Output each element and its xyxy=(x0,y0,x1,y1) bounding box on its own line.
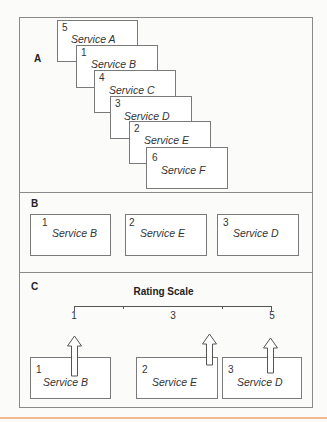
card-b-service-d: 3 Service D xyxy=(217,214,299,256)
card-name: Service B xyxy=(91,58,136,70)
card-b-service-b: 1 Service B xyxy=(30,214,111,256)
card-c-service-e: 2 Service E xyxy=(136,357,218,399)
scale-label-1: 1 xyxy=(71,310,77,321)
card-c-service-d: 3 Service D xyxy=(222,357,302,399)
bottom-accent-line xyxy=(0,417,327,419)
rating-scale-title: Rating Scale xyxy=(0,286,327,297)
scale-label-3: 3 xyxy=(170,310,176,321)
card-rank: 6 xyxy=(152,152,158,163)
card-name: Service E xyxy=(140,227,185,239)
card-rank: 1 xyxy=(42,217,48,228)
card-rank: 3 xyxy=(115,98,121,109)
card-name: Service E xyxy=(144,134,189,146)
card-rank: 2 xyxy=(129,217,135,228)
card-name: Service F xyxy=(161,164,205,176)
card-rank: 4 xyxy=(99,72,105,83)
card-name: Service B xyxy=(43,376,88,388)
card-rank: 5 xyxy=(62,22,68,33)
card-rank: 2 xyxy=(142,364,148,375)
divider-b-c xyxy=(19,272,313,273)
card-name: Service D xyxy=(237,376,283,388)
card-rank: 2 xyxy=(134,123,140,134)
card-c-service-b: 1 Service B xyxy=(30,357,111,399)
card-name: Service A xyxy=(71,33,116,45)
card-name: Service E xyxy=(152,376,197,388)
divider-a-b xyxy=(19,192,313,193)
card-name: Service D xyxy=(233,227,279,239)
section-b-label: B xyxy=(31,198,38,209)
card-rank: 1 xyxy=(81,47,87,58)
scale-label-5: 5 xyxy=(269,310,275,321)
card-rank: 3 xyxy=(223,217,229,228)
card-b-service-e: 2 Service E xyxy=(125,214,207,256)
card-rank: 1 xyxy=(36,364,42,375)
card-a-service-f: 6 Service F xyxy=(146,147,228,189)
card-name: Service C xyxy=(109,84,155,96)
card-name: Service B xyxy=(52,227,97,239)
card-rank: 3 xyxy=(228,364,234,375)
section-a-label: A xyxy=(34,53,41,64)
